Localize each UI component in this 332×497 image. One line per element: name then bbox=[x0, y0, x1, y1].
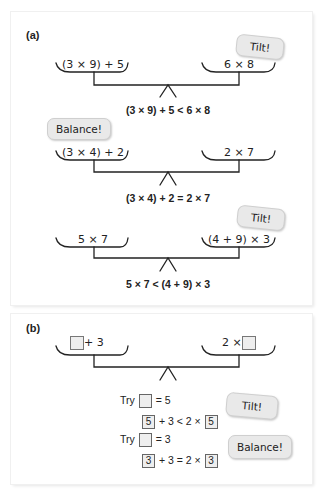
check-expression: + 3 < 2 × bbox=[159, 415, 201, 427]
value-box: 5 bbox=[142, 415, 155, 429]
value-box: 3 bbox=[205, 454, 218, 468]
value-box: 3 bbox=[142, 454, 155, 468]
scale-right-pan: (4 + 9) × 3 bbox=[206, 233, 272, 246]
right-expression: 2 × bbox=[222, 336, 242, 349]
inequality-equation: (3 × 9) + 5 < 6 × 8 bbox=[100, 104, 236, 116]
scale-left-pan: (3 × 4) + 2 bbox=[60, 146, 126, 159]
balance-tag: Balance! bbox=[47, 118, 111, 140]
try-row: Try = 3 bbox=[120, 433, 171, 447]
try-label: Try bbox=[120, 433, 135, 445]
try-row: Try = 5 bbox=[120, 394, 171, 408]
unknown-box bbox=[139, 394, 152, 408]
inequality-equation: 5 × 7 < (4 + 9) × 3 bbox=[100, 278, 236, 290]
tilt-tag: Tilt! bbox=[225, 392, 279, 420]
left-expression: + 3 bbox=[84, 336, 104, 349]
scale-left-pan: + 3 bbox=[70, 336, 130, 350]
unknown-box bbox=[242, 336, 256, 350]
scale-right-pan: 2 × bbox=[222, 336, 282, 350]
unknown-box bbox=[70, 336, 84, 350]
scale-right-pan: 6 × 8 bbox=[206, 58, 272, 71]
try-assignment: = 5 bbox=[156, 394, 171, 406]
try-label: Try bbox=[120, 394, 135, 406]
balance-tag: Balance! bbox=[228, 435, 292, 459]
equality-equation: (3 × 4) + 2 = 2 × 7 bbox=[100, 192, 236, 204]
check-row: 5 + 3 < 2 × 5 bbox=[141, 415, 219, 429]
panel-a-label: (a) bbox=[26, 29, 39, 41]
scale-left-pan: 5 × 7 bbox=[60, 233, 126, 246]
try-assignment: = 3 bbox=[156, 433, 171, 445]
check-row: 3 + 3 = 2 × 3 bbox=[141, 454, 219, 468]
unknown-box bbox=[139, 433, 152, 447]
scale-right-pan: 2 × 7 bbox=[206, 146, 272, 159]
value-box: 5 bbox=[205, 415, 218, 429]
check-expression: + 3 = 2 × bbox=[159, 454, 201, 466]
scale-left-pan: (3 × 9) + 5 bbox=[60, 58, 126, 71]
panel-b-label: (b) bbox=[26, 322, 40, 334]
